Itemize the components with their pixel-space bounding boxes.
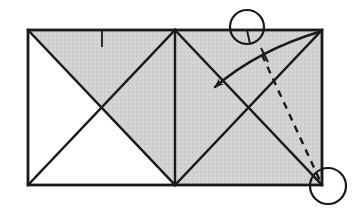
origami-diagram-canvas	[0, 0, 358, 210]
origami-diagram-figure	[0, 0, 358, 210]
